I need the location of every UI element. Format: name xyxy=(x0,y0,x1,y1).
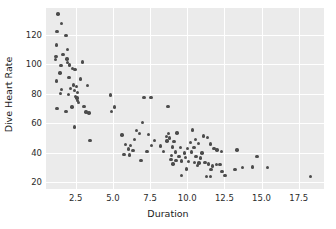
data-point xyxy=(186,147,189,150)
x-axis-tick-label: 7.5 xyxy=(143,194,157,203)
data-point xyxy=(79,77,82,80)
y-axis-tick-label: 60 xyxy=(31,119,42,128)
data-point xyxy=(191,128,194,131)
data-point xyxy=(81,60,84,63)
data-point xyxy=(179,146,182,149)
gridline-horizontal xyxy=(46,94,324,95)
y-axis-tick-label: 20 xyxy=(31,178,42,187)
data-point xyxy=(55,30,58,33)
data-point xyxy=(220,170,223,173)
data-point xyxy=(185,167,188,170)
data-point xyxy=(87,111,90,114)
data-point xyxy=(209,168,212,171)
data-point xyxy=(75,85,78,88)
data-point xyxy=(59,64,62,67)
data-point xyxy=(220,150,223,153)
data-point xyxy=(174,150,177,153)
data-point xyxy=(150,144,153,147)
data-point xyxy=(133,138,136,141)
data-point xyxy=(177,155,180,158)
x-axis-tick-label: 17.5 xyxy=(289,194,308,203)
data-point xyxy=(54,58,57,61)
data-point xyxy=(64,34,67,37)
data-point xyxy=(139,159,142,162)
x-axis-tick-label: 12.5 xyxy=(215,194,234,203)
data-point xyxy=(67,93,70,96)
scatter-plot-figure: Dive Heart Rate 20406080100120 2.55.07.5… xyxy=(0,0,336,229)
data-point xyxy=(56,12,59,15)
gridline-horizontal xyxy=(46,123,324,124)
data-point xyxy=(138,132,141,135)
data-point xyxy=(69,87,72,90)
data-point xyxy=(235,148,238,151)
data-point xyxy=(205,175,208,178)
data-point xyxy=(197,142,200,145)
data-point xyxy=(209,142,212,145)
data-point xyxy=(170,154,173,157)
data-point xyxy=(59,92,62,95)
data-point xyxy=(122,153,125,156)
data-point xyxy=(55,43,58,46)
data-point xyxy=(149,96,152,99)
data-point xyxy=(153,139,156,142)
data-point xyxy=(174,159,177,162)
data-point xyxy=(128,153,131,156)
data-point xyxy=(180,174,183,177)
data-point xyxy=(180,159,183,162)
data-point xyxy=(70,105,73,108)
data-point xyxy=(88,139,91,142)
data-point xyxy=(171,162,174,165)
x-axis-tick-label: 2.5 xyxy=(69,194,83,203)
data-point xyxy=(66,48,69,51)
plot-panel xyxy=(46,8,324,189)
gridline-horizontal xyxy=(46,182,324,183)
data-point xyxy=(255,155,258,158)
data-point xyxy=(124,143,127,146)
data-point xyxy=(187,160,190,163)
data-point xyxy=(77,101,80,104)
data-point xyxy=(194,138,197,141)
data-point xyxy=(109,93,112,96)
data-point xyxy=(73,68,76,71)
data-point xyxy=(159,144,162,147)
data-point xyxy=(131,149,134,152)
data-point xyxy=(145,150,148,153)
data-point xyxy=(207,162,210,165)
data-point xyxy=(86,84,89,87)
data-point xyxy=(199,156,202,159)
y-axis-tick-label: 120 xyxy=(26,30,42,39)
data-point xyxy=(223,174,226,177)
data-point xyxy=(206,136,209,139)
data-point xyxy=(175,131,178,134)
data-point xyxy=(241,166,244,169)
data-point xyxy=(172,140,175,143)
data-point xyxy=(60,22,63,25)
y-axis-tick-label: 40 xyxy=(31,149,42,158)
data-point xyxy=(192,146,195,149)
data-point xyxy=(202,134,205,137)
data-point xyxy=(194,155,197,158)
data-point xyxy=(113,105,116,108)
data-point xyxy=(233,168,236,171)
data-point xyxy=(251,165,254,168)
data-point xyxy=(61,53,64,56)
data-point xyxy=(183,151,186,154)
gridline-horizontal xyxy=(46,64,324,65)
data-point xyxy=(120,133,123,136)
x-axis-tick-labels: 2.55.07.510.012.515.017.5 xyxy=(0,194,336,208)
data-point xyxy=(60,88,63,91)
data-point xyxy=(55,79,58,82)
data-point xyxy=(58,71,61,74)
data-point xyxy=(55,107,58,110)
x-axis-tick-label: 5.0 xyxy=(106,194,120,203)
gridline-horizontal xyxy=(46,35,324,36)
data-point xyxy=(165,139,168,142)
data-point xyxy=(309,175,312,178)
data-point xyxy=(127,147,130,150)
data-point xyxy=(218,163,221,166)
data-point xyxy=(82,105,85,108)
y-axis-tick-label: 100 xyxy=(26,60,42,69)
data-point xyxy=(215,148,218,151)
data-point xyxy=(68,63,71,66)
data-point xyxy=(73,125,76,128)
